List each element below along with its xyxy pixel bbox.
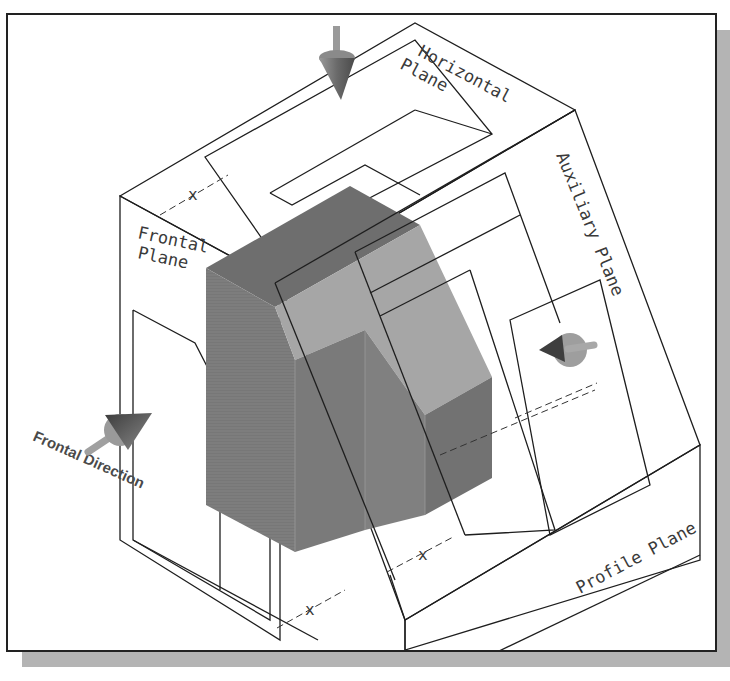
- dimension-bottom-right: x: [387, 536, 455, 572]
- dimension-top: x: [160, 175, 228, 215]
- dim-bottom-right-label: x: [418, 545, 428, 564]
- projection-diagram: x x x Horizontal Plane Frontal Plane Aux…: [6, 13, 717, 652]
- auxiliary-direction-arrow-icon: [539, 333, 594, 367]
- horizontal-direction-arrow-icon: [319, 26, 355, 100]
- figure-frame: x x x Horizontal Plane Frontal Plane Aux…: [6, 13, 717, 652]
- dim-bottom-left-label: x: [305, 600, 315, 619]
- dim-top-label: x: [188, 185, 198, 204]
- dimension-bottom-left: x: [277, 590, 345, 628]
